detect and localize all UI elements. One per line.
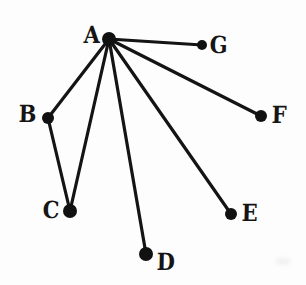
node-b[interactable]	[42, 112, 54, 124]
node-label-c: C	[42, 198, 59, 222]
node-label-e: E	[241, 201, 258, 225]
node-label-b: B	[18, 102, 36, 126]
edges-group	[48, 39, 261, 254]
node-a[interactable]	[102, 32, 116, 46]
node-f[interactable]	[255, 110, 267, 122]
nodes-group	[42, 32, 267, 261]
node-e[interactable]	[225, 208, 237, 220]
node-label-a: A	[83, 23, 100, 47]
corner-smudge	[275, 258, 291, 265]
edge-a-g	[109, 39, 202, 45]
node-c[interactable]	[63, 204, 77, 218]
node-label-f: F	[271, 103, 286, 127]
graph-canvas: ABCDEFG	[0, 0, 306, 285]
edge-a-d	[109, 39, 146, 254]
edge-a-f	[109, 39, 261, 116]
node-d[interactable]	[139, 247, 153, 261]
node-label-g: G	[209, 33, 227, 57]
graph-svg	[0, 0, 306, 285]
node-label-d: D	[156, 250, 175, 274]
edge-a-e	[109, 39, 231, 214]
node-g[interactable]	[197, 40, 207, 50]
